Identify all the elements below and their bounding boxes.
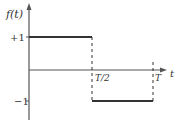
y-axis-label: f(t)	[5, 8, 23, 21]
x-axis-arrow-icon	[160, 68, 167, 73]
x-tick-label-half-period: T/2	[95, 73, 110, 83]
y-axis-arrow-icon	[27, 3, 32, 10]
x-tick-label-period: T	[155, 73, 162, 83]
y-tick-label-minus1: −1	[14, 96, 29, 107]
x-axis-label: t	[170, 68, 175, 79]
square-wave-diagram: f(t) t +1 −1 T/2 T	[0, 0, 182, 127]
y-tick-label-plus1: +1	[10, 32, 25, 43]
